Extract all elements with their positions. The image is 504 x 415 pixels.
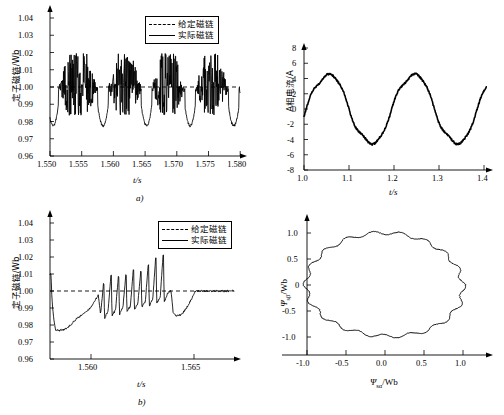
panel-d-x-axis-label: Ψsα/Wb	[370, 377, 398, 389]
panel-c-plot	[252, 0, 504, 190]
panel-a-ytick-4: 1.00	[18, 82, 33, 92]
panel-a-legend-row-actual: 实际磁链	[149, 30, 214, 41]
panel-d-ytick-2: 0	[295, 280, 299, 290]
panel-b-ytick-2: 0.98	[18, 320, 33, 330]
panel-a-xtick-3: 1.565	[132, 159, 151, 169]
panel-d-xtick-2: 0.0	[376, 358, 387, 368]
panel-c-xtick-2: 1.2	[387, 173, 398, 183]
panel-d-flux-trajectory: Ψsβ/Wb -1.0 -0.5 0 0.5 1.0 -1.0 -0.5 0.0…	[252, 207, 504, 415]
panel-a-ytick-1: 0.97	[18, 134, 33, 144]
panel-b-legend-label-actual: 实际磁链	[191, 235, 227, 246]
panel-a-legend-row-reference: 给定磁链	[149, 19, 214, 30]
panel-c-ytick-6: 4	[292, 74, 296, 84]
panel-b-ytick-4: 1.00	[18, 286, 33, 296]
panel-a-stator-flux-full: 定子磁链/Wb	[0, 0, 252, 207]
panel-a-legend: 给定磁链 实际磁链	[145, 16, 219, 44]
panel-b-ytick-5: 1.01	[18, 269, 33, 279]
panel-a-ytick-5: 1.01	[18, 65, 33, 75]
panel-a-caption: a)	[136, 193, 144, 203]
panel-c-ytick-4: 0	[292, 104, 296, 114]
solid-line-icon	[149, 35, 175, 37]
panel-a-xtick-5: 1.575	[196, 159, 215, 169]
solid-line-icon	[162, 240, 188, 242]
panel-a-legend-label-reference: 给定磁链	[178, 19, 214, 30]
panel-a-ytick-8: 1.04	[18, 13, 33, 23]
panel-b-ytick-8: 1.04	[18, 218, 33, 228]
panel-d-xlabel-unit: /Wb	[382, 377, 398, 387]
panel-b-ytick-1: 0.97	[18, 337, 33, 347]
panel-b-legend-row-reference: 给定磁链	[162, 224, 227, 235]
panel-b-ytick-0: 0.96	[18, 354, 33, 364]
panel-c-ytick-1: -6	[287, 150, 294, 160]
panel-a-ytick-2: 0.98	[18, 117, 33, 127]
panel-c-ytick-3: -2	[287, 119, 294, 129]
panel-b-ytick-3: 0.99	[18, 303, 33, 313]
panel-c-phase-current: A相电流/A -8 -6 -4 -2 0 2 4 6 8	[252, 0, 504, 207]
panel-b-xtick-0: 1.560	[78, 362, 97, 372]
panel-c-xtick-3: 1.3	[432, 173, 443, 183]
panel-c-xtick-4: 1.4	[477, 173, 488, 183]
panel-a-xtick-0: 1.550	[37, 159, 56, 169]
panel-c-xtick-0: 1.0	[297, 173, 308, 183]
panel-d-xtick-4: 1.0	[455, 358, 466, 368]
panel-d-ytick-3: 0.5	[287, 254, 298, 264]
panel-a-xtick-2: 1.560	[100, 159, 119, 169]
panel-c-ytick-5: 2	[292, 89, 296, 99]
panel-b-caption: b)	[138, 397, 146, 407]
panel-c-xtick-1: 1.1	[342, 173, 353, 183]
panel-d-xtick-3: 0.5	[416, 358, 427, 368]
panel-b-stator-flux-zoom: 定子磁链/Wb 0.96 0.97 0.98 0.99 1.00 1.01 1.…	[0, 207, 252, 415]
panel-c-ytick-7: 6	[292, 58, 296, 68]
panel-c-ytick-0: -8	[287, 165, 294, 175]
panel-a-xtick-4: 1.570	[164, 159, 183, 169]
dashed-line-icon	[149, 24, 175, 26]
panel-a-ytick-3: 0.99	[18, 99, 33, 109]
panel-b-legend-label-reference: 给定磁链	[191, 224, 227, 235]
panel-c-x-axis-label: t/s	[389, 187, 398, 197]
panel-d-ytick-1: -0.5	[282, 306, 295, 316]
panel-d-ytick-0: -1.0	[282, 332, 295, 342]
panel-d-xtick-0: -1.0	[296, 358, 309, 368]
panel-c-ytick-2: -4	[287, 135, 294, 145]
dashed-line-icon	[162, 229, 188, 231]
panel-b-ytick-7: 1.03	[18, 235, 33, 245]
panel-a-x-axis-label: t/s	[133, 175, 142, 185]
panel-b-xtick-1: 1.565	[181, 362, 200, 372]
panel-b-legend-row-actual: 实际磁链	[162, 235, 227, 246]
panel-a-legend-label-actual: 实际磁链	[178, 30, 214, 41]
panel-a-ytick-7: 1.03	[18, 30, 33, 40]
panel-a-ytick-6: 1.02	[18, 48, 33, 58]
panel-a-xtick-6: 1.580	[227, 159, 246, 169]
panel-b-x-axis-label: t/s	[137, 379, 146, 389]
panel-a-ytick-0: 0.96	[18, 151, 33, 161]
panel-b-legend: 给定磁链 实际磁链	[158, 221, 232, 249]
panel-d-xtick-1: -0.5	[335, 358, 348, 368]
panel-d-ytick-4: 1.0	[287, 228, 298, 238]
panel-b-ytick-6: 1.02	[18, 252, 33, 262]
panel-a-xtick-1: 1.555	[69, 159, 88, 169]
panel-c-ytick-8: 8	[292, 43, 296, 53]
